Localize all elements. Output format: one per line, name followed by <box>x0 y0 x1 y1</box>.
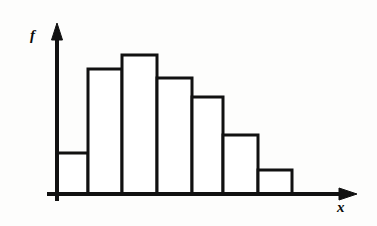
histogram-bar <box>88 69 122 194</box>
y-axis-arrowhead <box>52 23 63 40</box>
histogram-bar <box>57 153 88 194</box>
histogram-figure: f x <box>0 0 377 226</box>
histogram-bar <box>192 97 223 194</box>
y-axis-label: f <box>30 28 35 43</box>
histogram-bar <box>258 170 292 194</box>
histogram-bar <box>122 55 157 194</box>
histogram-canvas <box>0 0 377 226</box>
bars-group <box>57 55 292 194</box>
x-axis-label: x <box>337 200 345 215</box>
histogram-bar <box>157 78 192 194</box>
histogram-bar <box>223 135 258 194</box>
